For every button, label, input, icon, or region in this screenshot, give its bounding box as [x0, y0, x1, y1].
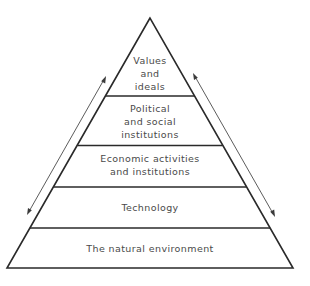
- pyramid-diagram: Values and ideals Political and social i…: [0, 0, 310, 286]
- layer-political-line-3: institutions: [121, 129, 179, 140]
- layer-technology: Technology: [120, 202, 178, 213]
- layer-values-line-2: and: [140, 68, 159, 79]
- layer-political-line-2: and social: [124, 116, 176, 127]
- layer-economic-line-2: and institutions: [110, 166, 190, 177]
- layer-technology-line-1: Technology: [120, 202, 178, 213]
- layer-environment-line-1: The natural environment: [85, 243, 213, 254]
- layer-economic-line-1: Economic activities: [100, 153, 199, 164]
- layer-values-line-3: ideals: [135, 81, 165, 92]
- layer-political: Political and social institutions: [121, 103, 179, 140]
- layer-values: Values and ideals: [133, 55, 166, 92]
- layer-economic: Economic activities and institutions: [100, 153, 199, 177]
- layer-values-line-1: Values: [133, 55, 166, 66]
- layer-environment: The natural environment: [85, 243, 213, 254]
- layer-political-line-1: Political: [130, 103, 170, 114]
